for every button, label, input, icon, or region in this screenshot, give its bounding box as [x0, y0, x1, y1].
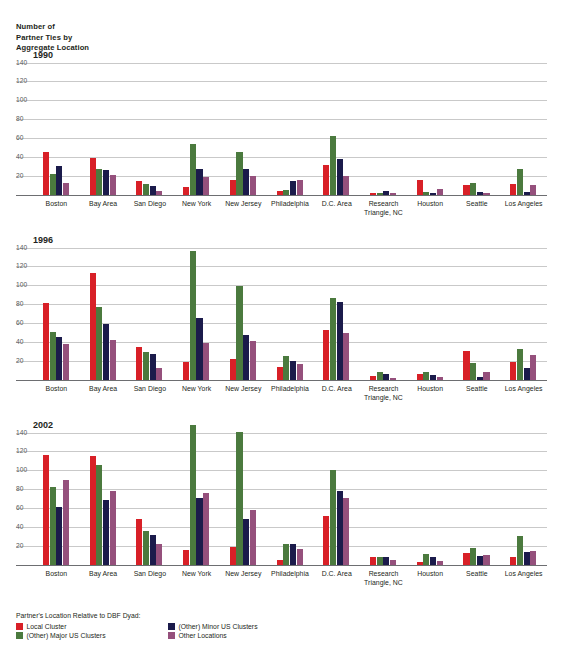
bar — [283, 544, 289, 565]
bar-group — [323, 298, 349, 380]
bar — [483, 372, 489, 381]
bar — [290, 181, 296, 195]
bar-group — [510, 169, 536, 195]
bar — [43, 152, 49, 196]
bar — [56, 166, 62, 195]
bar-group — [183, 144, 209, 195]
bar — [463, 351, 469, 380]
bar-group — [417, 554, 443, 565]
bar-group — [323, 470, 349, 565]
bar — [530, 551, 536, 565]
bar — [430, 193, 436, 195]
bar — [63, 480, 69, 565]
bar — [250, 510, 256, 565]
bar — [277, 367, 283, 380]
bar — [430, 375, 436, 380]
x-axis-category-label: Los Angeles — [494, 200, 554, 209]
bar — [470, 183, 476, 195]
bar — [110, 340, 116, 380]
bar-group — [90, 456, 116, 565]
bar — [437, 561, 443, 565]
bar-group — [183, 425, 209, 565]
bar — [150, 354, 156, 380]
bar-group — [370, 191, 396, 195]
bar — [250, 341, 256, 380]
bar — [190, 144, 196, 195]
bar-group — [463, 351, 489, 380]
bar — [43, 455, 49, 565]
bar-group — [136, 181, 162, 195]
chart-panel-2002: 200220406080100120140BostonBay AreaSan D… — [0, 425, 562, 605]
bar — [196, 498, 202, 565]
bar — [530, 355, 536, 380]
bar — [183, 187, 189, 195]
bar — [156, 191, 162, 195]
x-axis-line — [16, 565, 547, 566]
bar — [290, 544, 296, 565]
bar — [143, 352, 149, 380]
bar — [283, 190, 289, 195]
bar — [110, 175, 116, 195]
bar — [530, 185, 536, 195]
bar — [196, 318, 202, 380]
bar — [230, 180, 236, 195]
legend-item-major-us-clusters: (Other) Major US Clusters — [16, 632, 168, 639]
bar — [510, 362, 516, 380]
bar — [370, 557, 376, 565]
bar — [343, 498, 349, 565]
y-axis-tick-label: 20 — [16, 172, 32, 179]
bar — [236, 432, 242, 565]
bar — [330, 136, 336, 195]
page-title-line-1: Number of — [16, 22, 89, 33]
bar — [437, 377, 443, 380]
bar-group — [90, 158, 116, 195]
y-axis-tick-label: 40 — [16, 523, 32, 530]
legend-label: Local Cluster — [27, 623, 67, 630]
bar — [243, 335, 249, 380]
bar-group — [323, 136, 349, 195]
bar — [90, 273, 96, 380]
bar — [370, 193, 376, 195]
bar — [103, 500, 109, 565]
bar — [136, 347, 142, 380]
page-title-line-2: Partner Ties by — [16, 33, 89, 44]
bar — [90, 158, 96, 195]
bar-group — [136, 519, 162, 565]
bar-group — [230, 286, 256, 380]
bar — [423, 372, 429, 381]
bar-group — [370, 372, 396, 380]
bar — [437, 189, 443, 195]
legend-swatch-icon — [168, 632, 175, 639]
bar — [43, 303, 49, 380]
y-axis-tick-label: 120 — [16, 77, 32, 84]
x-axis-category-label: Los Angeles — [494, 385, 554, 394]
y-axis-tick-label: 100 — [16, 281, 32, 288]
bar — [103, 170, 109, 195]
legend-swatch-icon — [16, 632, 23, 639]
bar-group — [277, 180, 303, 195]
bar — [143, 184, 149, 195]
legend-item-other-locations: Other Locations — [168, 632, 416, 639]
legend-swatch-icon — [168, 623, 175, 630]
bar — [383, 191, 389, 195]
bar-group — [230, 152, 256, 195]
legend-label: Other Locations — [179, 632, 227, 639]
bar — [297, 549, 303, 565]
bar — [430, 557, 436, 566]
bar-group — [463, 548, 489, 565]
plot-area: 20406080100120140BostonBay AreaSan Diego… — [16, 425, 547, 565]
bar — [377, 372, 383, 380]
bar — [383, 557, 389, 565]
bar-group — [43, 455, 69, 565]
bar — [50, 332, 56, 380]
bar — [190, 425, 196, 565]
x-axis-line — [16, 380, 547, 381]
bar — [483, 555, 489, 565]
bar — [236, 286, 242, 380]
y-axis-tick-label: 60 — [16, 319, 32, 326]
bar — [390, 378, 396, 380]
bar — [417, 180, 423, 195]
bars-layer: BostonBay AreaSan DiegoNew YorkNew Jerse… — [33, 425, 547, 565]
bar — [524, 368, 530, 380]
chart-legend: Partner's Location Relative to DBF Dyad:… — [16, 612, 416, 639]
